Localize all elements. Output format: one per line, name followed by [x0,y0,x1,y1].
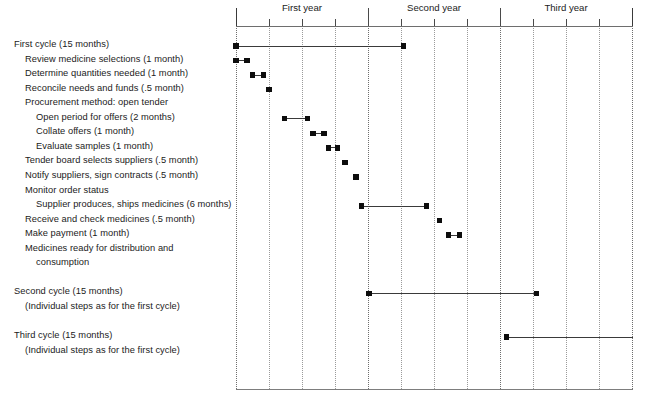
gantt-timeline: First yearSecond yearThird year [236,0,633,409]
task-label: Notify suppliers, sign contracts (.5 mon… [25,170,198,180]
gantt-milestone-marker [250,72,255,77]
gantt-milestone-marker [437,218,442,223]
gridline-year [632,26,633,389]
gantt-milestone-marker [310,131,315,136]
axis-tick-quarter [566,19,567,26]
gridline-quarter [335,26,336,389]
gridline-quarter [533,26,534,389]
gantt-milestone-marker [359,203,364,208]
gantt-milestone-marker [233,58,238,63]
axis-tick-quarter [335,19,336,26]
gantt-milestone-marker [244,58,249,63]
axis-bottom-line [236,389,633,390]
gantt-milestone-marker [446,232,451,237]
task-label: Evaluate samples (1 month) [36,141,153,151]
task-label: Second cycle (15 months) [14,286,123,296]
task-label: Reconcile needs and funds (.5 month) [25,83,184,93]
gantt-milestone-marker [401,43,406,48]
task-label: Review medicine selections (1 month) [25,54,183,64]
gridline-quarter [467,26,468,389]
gantt-milestone-marker [321,131,326,136]
gridline-quarter [599,26,600,389]
task-label: (Individual steps as for the first cycle… [25,301,180,311]
gantt-chart: First cycle (15 months)Review medicine s… [0,0,651,409]
axis-tick-quarter [599,19,600,26]
gantt-milestone-marker [326,145,331,150]
gantt-milestone-marker [353,174,358,179]
task-label: Make payment (1 month) [25,228,129,238]
gantt-milestone-marker [266,87,271,92]
task-label: Monitor order status [25,185,109,195]
gantt-bar [361,206,426,207]
gridline-quarter [566,26,567,389]
year-label-1: First year [282,2,322,13]
axis-tick-quarter [467,19,468,26]
gantt-milestone-marker [424,203,429,208]
gantt-milestone-marker [457,232,462,237]
task-label: Supplier produces, ships medicines (6 mo… [36,199,232,209]
gantt-milestone-marker [504,334,509,339]
task-label: (Individual steps as for the first cycle… [25,345,180,355]
task-label: Open period for offers (2 months) [36,112,175,122]
gridline-year [236,26,237,389]
gridline-quarter [434,26,435,389]
gantt-milestone-marker [261,72,266,77]
axis-tick-quarter [302,19,303,26]
year-label-3: Third year [544,2,587,13]
axis-tick-quarter [269,19,270,26]
gantt-bar [369,293,536,294]
gridline-year [368,26,369,389]
task-label: Procurement method: open tender [25,97,168,107]
gantt-bar [507,337,633,338]
axis-tick-year [368,8,369,26]
task-label-column: First cycle (15 months)Review medicine s… [0,0,236,409]
gantt-milestone-marker [233,43,238,48]
gantt-milestone-marker [534,291,539,296]
gridline-quarter [269,26,270,389]
task-label: consumption [36,257,89,267]
task-label: Medicines ready for distribution and [25,243,174,253]
gantt-milestone-marker [335,145,340,150]
axis-tick-year [236,8,237,26]
gantt-milestone-marker [366,291,371,296]
task-label: Receive and check medicines (.5 month) [25,214,195,224]
axis-tick-quarter [401,19,402,26]
gridline-year [500,26,501,389]
gantt-bar [236,46,403,47]
task-label: Third cycle (15 months) [14,330,112,340]
gantt-milestone-marker [305,116,310,121]
task-label: First cycle (15 months) [14,39,109,49]
axis-tick-year [500,8,501,26]
axis-tick-end [632,8,633,26]
task-label: Determine quantities needed (1 month) [25,68,188,78]
gantt-milestone-marker [282,116,287,121]
task-label: Collate offers (1 month) [36,126,134,136]
gantt-milestone-marker [342,160,347,165]
axis-tick-quarter [434,19,435,26]
year-label-2: Second year [407,2,461,13]
gridline-quarter [302,26,303,389]
gridline-quarter [401,26,402,389]
task-label: Tender board selects suppliers (.5 month… [25,155,198,165]
axis-tick-quarter [533,19,534,26]
